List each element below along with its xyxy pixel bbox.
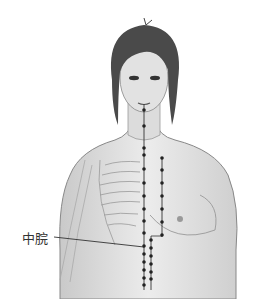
acupuncture-point (149, 270, 153, 274)
acupuncture-point (142, 167, 146, 171)
acupuncture-point (160, 156, 164, 160)
acupuncture-point (142, 252, 146, 256)
acupuncture-point (160, 181, 164, 185)
acupuncture-point (142, 194, 146, 198)
acupuncture-point (149, 254, 153, 258)
acupuncture-point (142, 181, 146, 185)
acupuncture-point (142, 231, 146, 235)
acupuncture-point (142, 146, 146, 150)
acupuncture-point (142, 276, 146, 280)
acupuncture-point (142, 219, 146, 223)
acupuncture-point (149, 246, 153, 250)
acupuncture-point (142, 108, 146, 112)
acupuncture-point (160, 220, 164, 224)
nipple (177, 216, 183, 222)
right-eye (150, 76, 160, 80)
acupuncture-point (142, 244, 146, 248)
acupuncture-point (149, 238, 153, 242)
point-label-zhongwan: 中脘 (22, 228, 48, 247)
torso (60, 120, 237, 299)
acupuncture-point (160, 233, 164, 237)
acupuncture-point (142, 260, 146, 264)
acupuncture-figure (0, 0, 265, 299)
acupuncture-point (142, 283, 146, 287)
acupuncture-point (142, 268, 146, 272)
acupuncture-point (160, 207, 164, 211)
acupuncture-point (149, 277, 153, 281)
acupuncture-point (142, 153, 146, 157)
acupuncture-point (160, 168, 164, 172)
acupuncture-point (149, 262, 153, 266)
acupuncture-point (142, 207, 146, 211)
acupuncture-point (160, 194, 164, 198)
hair-tuft (144, 18, 152, 25)
acupuncture-point (142, 124, 146, 128)
left-eye (129, 76, 139, 80)
